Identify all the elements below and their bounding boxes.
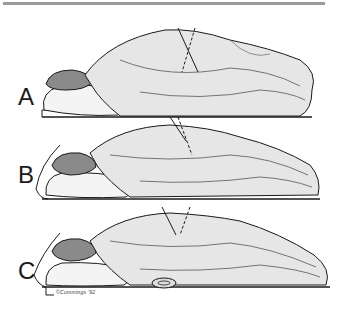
prone-figure-a-illustration — [0, 20, 340, 120]
prone-figure-b-illustration — [0, 115, 340, 205]
panel-b: B — [0, 115, 340, 205]
prone-figure-c-illustration — [0, 205, 340, 300]
panel-c: C — [0, 205, 340, 300]
artist-signature: ©Cummings '92 — [56, 289, 95, 295]
panel-a: A — [0, 20, 340, 120]
top-rule — [3, 2, 325, 5]
